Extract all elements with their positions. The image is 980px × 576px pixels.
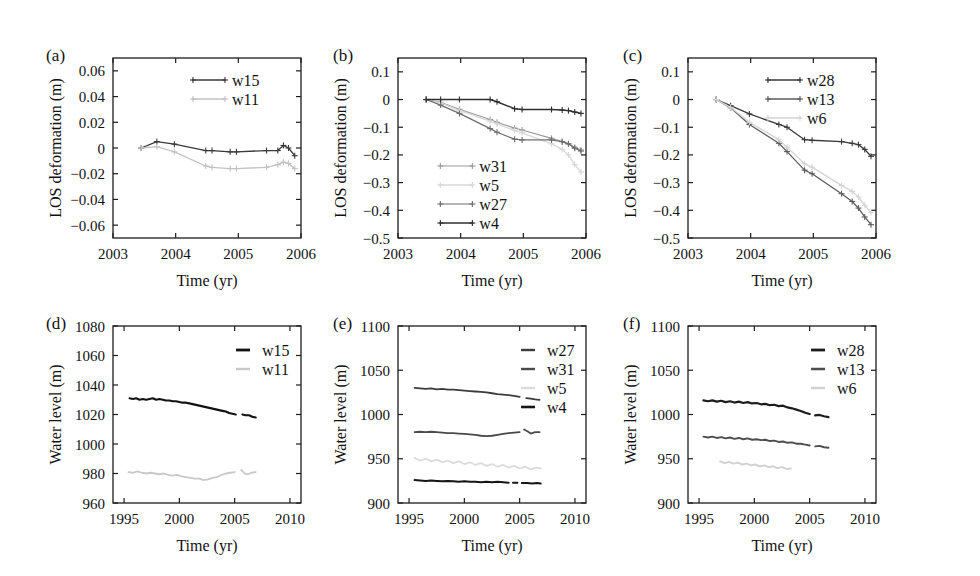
series-line-w13 — [703, 437, 809, 446]
legend-f: w28w13w6 — [811, 342, 865, 397]
x-tick-label-f: 1995 — [684, 511, 714, 527]
y-tick-label-d: 1000 — [75, 437, 105, 453]
y-tick-label-a: 0 — [98, 141, 106, 157]
x-axis-title-e: Time (yr) — [461, 537, 522, 555]
series-line-w5 — [415, 458, 541, 470]
series-line-w11 — [241, 470, 255, 474]
x-tick-label-c: 2004 — [736, 246, 767, 262]
y-tick-label-c: −0.1 — [653, 120, 680, 136]
series-line-w15 — [130, 398, 236, 414]
y-tick-label-d: 1080 — [75, 319, 105, 335]
y-tick-label-d: 1040 — [75, 378, 105, 394]
legend-label-w13: w13 — [837, 361, 865, 378]
series-group-d — [128, 398, 255, 480]
legend-label-w5: w5 — [479, 177, 499, 194]
y-tick-label-a: −0.04 — [70, 192, 105, 208]
x-tick-label-a: 2005 — [223, 246, 253, 262]
legend-label-w4: w4 — [479, 215, 499, 232]
x-tick-label-e: 2000 — [449, 511, 479, 527]
y-tick-label-e: 1100 — [361, 319, 390, 335]
y-tick-label-d: 960 — [83, 496, 106, 512]
legend-a: w15w11 — [190, 72, 260, 108]
figure-canvas: (a)−0.06−0.04−0.0200.020.040.06200320042… — [0, 0, 980, 576]
y-tick-label-c: −0.4 — [653, 203, 681, 219]
y-tick-label-c: −0.2 — [653, 147, 680, 163]
y-axis-title-a: LOS deformation (m) — [47, 78, 65, 218]
y-tick-label-a: 0.02 — [79, 115, 105, 131]
x-tick-label-e: 2010 — [560, 511, 590, 527]
y-tick-label-b: −0.3 — [363, 175, 390, 191]
series-line-w15 — [242, 415, 255, 418]
legend-label-w31: w31 — [479, 158, 507, 175]
y-tick-label-c: 0 — [673, 92, 681, 108]
series-group-a — [138, 139, 298, 172]
x-tick-label-c: 2003 — [673, 246, 703, 262]
legend-label-w15: w15 — [262, 342, 290, 359]
chart-panel-a: −0.06−0.04−0.0200.020.040.06200320042005… — [35, 44, 327, 300]
legend-label-w28: w28 — [807, 72, 835, 89]
series-line-w6 — [720, 461, 791, 469]
legend-label-w5: w5 — [547, 380, 567, 397]
y-axis-title-e: Water level (m) — [332, 365, 350, 465]
x-tick-label-d: 1995 — [109, 511, 139, 527]
legend-label-w27: w27 — [479, 196, 507, 213]
x-tick-label-c: 2005 — [798, 246, 828, 262]
legend-b: w31w5w27w4 — [437, 158, 507, 232]
y-tick-label-e: 1000 — [360, 407, 390, 423]
x-tick-label-e: 2005 — [505, 511, 535, 527]
x-axis-title-f: Time (yr) — [751, 537, 812, 555]
y-tick-label-b: −0.1 — [363, 120, 390, 136]
y-tick-label-c: 0.1 — [661, 64, 680, 80]
series-line-w27 — [426, 100, 581, 152]
series-group-c — [713, 97, 874, 228]
legend-d: w15w11 — [236, 342, 290, 378]
y-tick-label-b: −0.4 — [363, 203, 391, 219]
chart-panel-e: 9009501000105011001995200020052010Time (… — [320, 312, 612, 565]
y-tick-label-f: 1000 — [650, 407, 680, 423]
x-tick-label-f: 2010 — [850, 511, 880, 527]
series-line-w13 — [815, 446, 828, 448]
x-tick-label-f: 2000 — [739, 511, 769, 527]
series-line-w28 — [703, 400, 809, 414]
legend-e: w27w31w5w4 — [521, 342, 575, 416]
y-tick-label-e: 950 — [368, 451, 391, 467]
legend-label-w31: w31 — [547, 361, 575, 378]
legend-label-w6: w6 — [837, 380, 857, 397]
y-tick-label-f: 1050 — [650, 363, 680, 379]
y-tick-label-d: 1020 — [75, 407, 105, 423]
series-line-w28 — [815, 415, 828, 417]
y-axis-title-f: Water level (m) — [622, 365, 640, 465]
series-line-w31 — [524, 430, 539, 434]
x-tick-label-b: 2006 — [571, 246, 602, 262]
chart-panel-f: 9009501000105011001995200020052010Time (… — [610, 312, 902, 565]
legend-label-w15: w15 — [232, 72, 260, 89]
legend-label-w13: w13 — [807, 91, 835, 108]
legend-label-w11: w11 — [232, 91, 259, 108]
series-group-e — [415, 388, 541, 484]
y-tick-label-f: 900 — [658, 496, 681, 512]
series-line-w28 — [716, 100, 871, 157]
y-tick-label-a: −0.06 — [70, 218, 105, 234]
x-axis-title-b: Time (yr) — [461, 272, 522, 290]
x-axis-title-a: Time (yr) — [176, 272, 237, 290]
chart-panel-c: −0.5−0.4−0.3−0.2−0.100.12003200420052006… — [610, 44, 902, 300]
x-tick-label-b: 2005 — [508, 246, 538, 262]
x-axis-title-d: Time (yr) — [176, 537, 237, 555]
y-tick-label-b: −0.5 — [363, 231, 390, 247]
y-tick-label-d: 1060 — [75, 348, 105, 364]
y-tick-label-a: 0.04 — [79, 89, 106, 105]
y-axis-title-c: LOS deformation (m) — [622, 78, 640, 218]
legend-label-w6: w6 — [807, 110, 827, 127]
x-tick-label-a: 2004 — [161, 246, 192, 262]
x-tick-label-d: 2005 — [220, 511, 250, 527]
y-tick-label-e: 900 — [368, 496, 391, 512]
legend-label-w4: w4 — [547, 399, 567, 416]
y-tick-label-c: −0.5 — [653, 231, 680, 247]
y-tick-label-c: −0.3 — [653, 175, 680, 191]
legend-label-w27: w27 — [547, 342, 575, 359]
y-tick-label-a: 0.06 — [79, 63, 106, 79]
y-tick-label-f: 1100 — [651, 319, 680, 335]
y-axis-title-b: LOS deformation (m) — [332, 78, 350, 218]
y-tick-label-e: 1050 — [360, 363, 390, 379]
chart-panel-d: 9609801000102010401060108019952000200520… — [35, 312, 327, 565]
